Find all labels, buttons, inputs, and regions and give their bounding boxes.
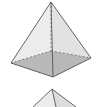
pyramid-2-partial xyxy=(33,89,76,107)
pyramid-1 xyxy=(11,2,91,77)
pyramid-diagram xyxy=(0,0,98,107)
